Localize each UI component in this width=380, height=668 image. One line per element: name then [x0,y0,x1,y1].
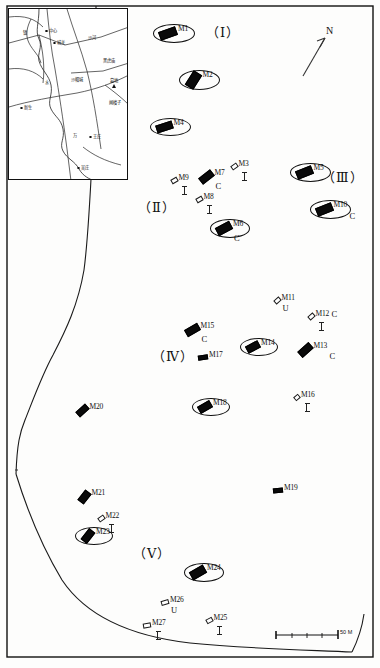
inset-place-label: 水 [45,81,49,85]
tomb-label: M25 [214,614,228,622]
inset-place-marker [89,136,92,139]
tomb-group-label-2: （Ⅱ） [138,197,176,216]
tomb-type-code: U [171,606,177,615]
inset-tomb-marker [112,84,116,88]
inset-place-label: 新生 [24,106,32,110]
tomb-label: M26 [170,596,184,604]
tomb-label: M1 [178,25,188,33]
tomb-label: M8 [204,193,214,201]
inset-place-label: 王庄 [93,135,101,139]
location-inset-map: 镇中心城关沙河黑虎庙沙帽城墓地闸楼子新生水万王庄吴庄 [8,8,128,180]
inset-place-marker [53,42,56,45]
tomb-type-code: C [330,352,336,361]
inset-place-marker [45,30,48,33]
inset-place-label: 城关 [57,41,65,45]
tomb-symbol-filled [273,487,283,493]
inset-place-label: 镇 [23,31,27,35]
inset-place-label: 中心 [49,29,57,33]
inset-road-6 [71,63,128,73]
tomb-label: M12 [316,310,330,318]
inset-place-label: 吴庄 [81,166,89,170]
tomb-group-label-1: （Ⅰ） [206,22,240,41]
site-distribution-map: N 50 M 镇中心城关沙河黑虎庙沙帽城墓地闸楼子新生水万王庄吴庄 M1M2M4… [0,0,380,668]
tomb-label: M2 [203,71,213,79]
inset-road-9 [9,68,43,79]
tomb-label: M13 [314,342,328,350]
scale-bar [276,630,338,639]
tomb-symbol-filled [198,354,209,360]
tomb-type-code: C [234,234,240,243]
tomb-passage-tick [321,322,322,331]
tomb-label: M23 [96,528,110,536]
north-arrow-head [317,38,325,47]
tomb-type-code: C [350,212,356,221]
tomb-symbol-hollow [143,622,152,628]
tomb-label: M21 [92,489,106,497]
tomb-label: M24 [207,564,221,572]
tomb-group-label-5: （Ⅴ） [133,543,171,562]
tomb-label: M20 [90,403,104,411]
tomb-label: M7 [215,169,225,177]
inset-place-label: 闸楼子 [109,101,121,105]
tomb-type-code: C [202,335,208,344]
tomb-label: M14 [261,339,275,347]
scale-bar-label: 50 M [340,629,352,635]
inset-road-10 [83,147,121,165]
inset-place-label: 万 [73,134,77,138]
inset-place-label: 沙帽城 [71,78,83,82]
tomb-label: M18 [213,399,227,407]
tomb-label: M4 [174,119,184,127]
north-arrow-label: N [326,25,333,36]
tomb-type-code: U [283,304,289,313]
tomb-label: M17 [209,351,223,359]
tomb-passage-tick [219,626,220,635]
tomb-group-label-4: （Ⅳ） [152,346,194,365]
tomb-passage-tick [209,205,210,214]
tomb-label: M16 [301,391,315,399]
site-boundary-bottom [16,474,352,652]
tomb-label: M27 [152,619,166,627]
tomb-label: M9 [179,174,189,182]
tomb-type-code: C [216,182,222,191]
tomb-label: M22 [106,512,120,520]
tomb-group-label-3: （Ⅲ） [322,167,364,186]
tomb-label: M6 [233,220,243,228]
tomb-label: M3 [239,160,249,168]
tomb-label: M10 [334,201,348,209]
inset-place-label: 黑虎庙 [103,59,115,63]
tomb-passage-tick [244,172,245,181]
tomb-passage-tick [306,403,307,412]
tomb-label: M11 [282,294,295,302]
tomb-passage-tick [184,186,185,195]
tomb-type-code: C [332,310,338,319]
tomb-passage-tick [157,631,158,640]
inset-place-label: 墓地 [110,79,118,83]
site-boundary-right [352,614,364,652]
inset-place-label: 沙河 [88,36,96,40]
tomb-label: M15 [201,322,215,330]
inset-place-marker [77,167,80,170]
tomb-label: M19 [284,484,298,492]
inset-place-marker [20,107,23,110]
